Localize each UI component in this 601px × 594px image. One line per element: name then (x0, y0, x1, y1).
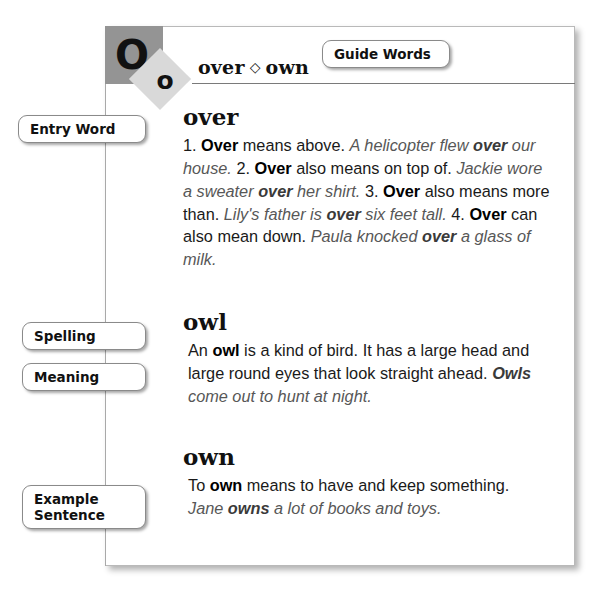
definition-own: To own means to have and keep something.… (183, 474, 543, 520)
header-divider-rule (192, 83, 575, 84)
letter-o-small: o (152, 68, 178, 94)
callout-example-line1: Example (34, 491, 134, 507)
callout-example-sentence[interactable]: Example Sentence (22, 485, 146, 529)
callout-guide-words-label: Guide Words (334, 46, 431, 62)
callout-entry-word[interactable]: Entry Word (18, 115, 146, 143)
callout-entry-word-label: Entry Word (30, 121, 115, 137)
dictionary-entry-own: own To own means to have and keep someth… (183, 445, 543, 520)
guide-words-heading: over◇own (198, 56, 309, 78)
callout-meaning[interactable]: Meaning (22, 363, 146, 391)
diamond-separator-icon: ◇ (250, 59, 261, 75)
headword-owl: owl (183, 310, 543, 334)
dictionary-entry-owl: owl An owl is a kind of bird. It has a l… (183, 310, 543, 408)
callout-guide-words[interactable]: Guide Words (322, 40, 450, 68)
callout-meaning-label: Meaning (34, 369, 99, 385)
guide-word-first: over (198, 56, 245, 78)
guide-word-last: own (266, 56, 309, 78)
headword-own: own (183, 445, 543, 469)
callout-spelling-label: Spelling (34, 328, 96, 344)
dictionary-entry-over: over 1. Over means above. A helicopter f… (183, 105, 555, 271)
definition-owl: An owl is a kind of bird. It has a large… (183, 339, 543, 407)
headword-over: over (183, 105, 555, 129)
definition-over: 1. Over means above. A helicopter flew o… (183, 134, 555, 271)
callout-example-line2: Sentence (34, 507, 134, 523)
callout-spelling[interactable]: Spelling (22, 322, 146, 350)
